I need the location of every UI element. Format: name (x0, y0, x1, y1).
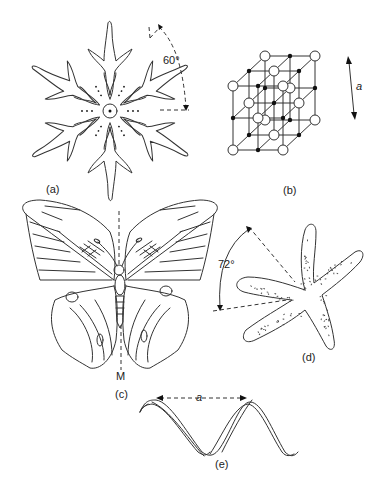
starfish-speck (324, 303, 326, 304)
snowflake-dot (120, 90, 122, 92)
starfish-speck (325, 278, 327, 279)
starfish-speck (309, 267, 310, 269)
starfish-speck (307, 240, 308, 242)
starfish-speck (301, 283, 303, 284)
lattice-atom-small (297, 69, 301, 73)
starfish-speck (311, 284, 313, 286)
starfish-speck (341, 261, 343, 262)
lattice-atom-large (310, 115, 320, 125)
starfish-speck (309, 281, 311, 283)
lattice-atom-large (253, 113, 263, 123)
lattice-atom-small (263, 86, 267, 90)
starfish-speck (334, 265, 336, 266)
snowflake-center-dot (109, 110, 112, 113)
panel-d-starfish (237, 224, 363, 349)
panel-a-label: (a) (46, 183, 59, 195)
starfish-speck (321, 318, 322, 320)
lattice-atom-small (256, 84, 260, 88)
lattice-atom-large (294, 98, 304, 108)
panel-d-angle-annotation: 72° (213, 226, 295, 311)
lattice-atom-small (272, 101, 276, 105)
snowflake-arm (21, 98, 110, 175)
starfish-speck (340, 264, 342, 266)
snowflake-dot (91, 110, 93, 112)
lattice-atom-small (288, 54, 292, 58)
starfish-speck (265, 329, 266, 331)
starfish-speck (263, 288, 265, 289)
starfish-speck (267, 325, 268, 327)
lattice-atom-large (269, 66, 279, 76)
symmetry-figure: 60° (a) a (b) (0, 0, 381, 491)
angle-60-label: 60° (163, 54, 180, 66)
starfish-speck (263, 329, 265, 330)
starfish-speck (292, 300, 294, 301)
starfish-speck (323, 320, 325, 322)
lattice-atom-large (260, 51, 270, 61)
starfish-speck (287, 297, 289, 298)
panel-e-helix-ribbon: a (140, 391, 298, 456)
starfish-speck (328, 269, 329, 271)
snowflake-dot (100, 94, 102, 96)
panel-a-angle-annotation: 60° (149, 24, 189, 111)
starfish-speck (307, 261, 309, 263)
lattice-atom-small (247, 133, 251, 137)
snowflake-arm (88, 21, 132, 99)
lattice-atom-large (228, 81, 238, 91)
starfish-speck (305, 263, 307, 264)
lattice-atom-large (228, 145, 238, 155)
starfish-speck (304, 267, 306, 268)
starfish-speck (268, 293, 270, 295)
starfish-speck (254, 287, 256, 288)
lattice-atom-small (231, 116, 235, 120)
lattice-parameter-a: a (356, 80, 362, 92)
snowflake-dot (95, 134, 97, 136)
lattice-atom-large (269, 130, 279, 140)
starfish-speck (283, 314, 285, 316)
starfish-speck (333, 273, 334, 275)
starfish-speck (300, 316, 302, 317)
starfish-speck (307, 270, 309, 272)
lattice-atom-small (288, 118, 292, 122)
snowflake-dot (95, 86, 97, 88)
starfish-speck (317, 276, 319, 277)
starfish-speck (250, 285, 252, 287)
snowflake-dot (118, 94, 120, 96)
lattice-atom-small (256, 148, 260, 152)
lattice-atom-small (281, 116, 285, 120)
starfish-speck (304, 255, 305, 257)
snowflake-dot (132, 110, 134, 112)
panel-b-lattice (228, 51, 320, 155)
panel-d-label: (d) (302, 351, 315, 363)
starfish-speck (267, 292, 269, 293)
panel-e-label: (e) (215, 458, 228, 470)
starfish-speck (327, 325, 329, 327)
snowflake-dot (97, 90, 99, 92)
starfish-speck (308, 277, 310, 279)
panel-b-dimension-a: a (346, 56, 362, 120)
starfish-speck (261, 292, 263, 294)
snowflake-arm (109, 47, 198, 124)
starfish-speck (304, 278, 306, 279)
starfish-speck (325, 319, 327, 320)
starfish-speck (290, 313, 292, 315)
lattice-atom-large (278, 81, 288, 91)
lattice-atom-large (278, 145, 288, 155)
snowflake-arm (88, 123, 132, 201)
panel-c-label: (c) (115, 388, 128, 400)
snowflake-dot (100, 125, 102, 127)
starfish-speck (320, 283, 322, 285)
snowflake-arm (21, 47, 110, 124)
starfish-speck (277, 296, 279, 297)
snowflake-dot (118, 125, 120, 127)
starfish-speck (259, 333, 261, 335)
starfish-speck (283, 319, 285, 320)
panel-a-snowflake (21, 21, 198, 200)
panel-c-butterfly: M (23, 200, 218, 382)
snowflake-dot (120, 130, 122, 132)
snowflake-dot (127, 110, 129, 112)
starfish-speck (264, 326, 266, 328)
starfish-speck (328, 335, 329, 337)
snowflake-dot (123, 86, 125, 88)
mirror-plane-label-M: M (116, 370, 125, 382)
starfish-speck (320, 299, 321, 301)
